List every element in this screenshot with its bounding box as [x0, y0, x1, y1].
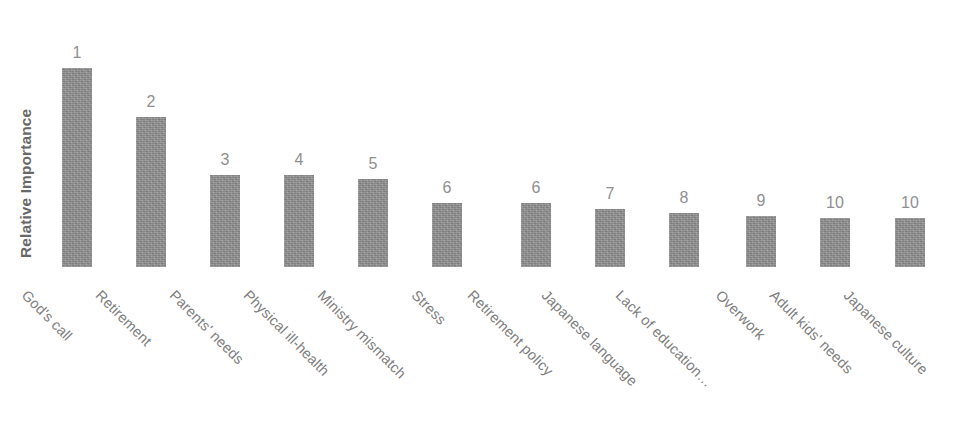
plot-area: 12345667891010: [0, 0, 953, 267]
bar: [62, 68, 92, 267]
category-axis-labels: God's callRetirementParents' needsPhysic…: [0, 267, 953, 443]
bar: [895, 218, 925, 267]
category-label: Overwork: [713, 287, 769, 343]
bar: [595, 209, 625, 267]
bar: [284, 175, 314, 267]
bar-value-label: 1: [44, 44, 110, 62]
bar: [746, 216, 776, 267]
category-label: Stress: [409, 287, 450, 328]
bar-chart: Relative Importance 12345667891010 God's…: [0, 0, 953, 443]
category-label: Parents' needs: [167, 287, 247, 367]
bar: [358, 179, 388, 267]
bar: [669, 213, 699, 267]
bar-value-label: 10: [877, 194, 943, 212]
bar: [521, 203, 551, 267]
bar: [432, 203, 462, 267]
bar: [136, 117, 166, 267]
bar-value-label: 4: [266, 151, 332, 169]
category-label: Retirement: [93, 287, 155, 349]
bar-value-label: 3: [192, 151, 258, 169]
bar-value-label: 6: [414, 179, 480, 197]
bar: [820, 218, 850, 267]
bar-value-label: 5: [340, 155, 406, 173]
bar-value-label: 2: [118, 93, 184, 111]
bar-value-label: 8: [651, 189, 717, 207]
bar-value-label: 9: [728, 192, 794, 210]
bar: [210, 175, 240, 267]
category-label: God's call: [19, 287, 76, 344]
bar-value-label: 10: [802, 194, 868, 212]
bar-value-label: 6: [503, 179, 569, 197]
bar-value-label: 7: [577, 185, 643, 203]
